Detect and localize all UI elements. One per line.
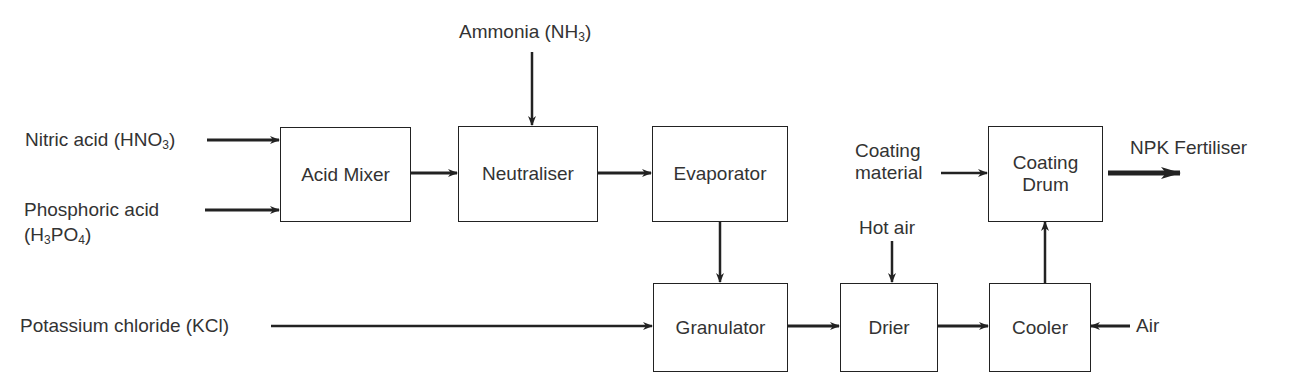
- air-label: Air: [1136, 315, 1159, 337]
- coating-drum-box: Coating Drum: [988, 126, 1103, 222]
- nitric-acid-label: Nitric acid (HNO3): [25, 129, 175, 151]
- potassium-chloride-label: Potassium chloride (KCl): [20, 315, 229, 337]
- granulator-label: Granulator: [676, 317, 766, 339]
- ammonia-label: Ammonia (NH3): [459, 21, 591, 43]
- npk-fertiliser-label: NPK Fertiliser: [1130, 137, 1247, 159]
- drier-box: Drier: [840, 283, 938, 372]
- cooler-box: Cooler: [989, 283, 1091, 372]
- drier-label: Drier: [868, 317, 909, 339]
- neutraliser-box: Neutraliser: [458, 126, 598, 222]
- evaporator-box: Evaporator: [652, 126, 788, 222]
- acid-mixer-label: Acid Mixer: [301, 164, 390, 186]
- coating-drum-label-line2: Drum: [1022, 174, 1068, 196]
- cooler-label: Cooler: [1012, 317, 1068, 339]
- coating-drum-label-line1: Coating: [1013, 152, 1079, 174]
- acid-mixer-box: Acid Mixer: [280, 127, 411, 222]
- coating-material-label: Coating material: [855, 140, 923, 184]
- evaporator-label: Evaporator: [674, 163, 767, 185]
- neutraliser-label: Neutraliser: [482, 163, 574, 185]
- phosphoric-acid-label: Phosphoric acid (H3PO4): [24, 199, 159, 246]
- granulator-box: Granulator: [653, 283, 788, 372]
- hot-air-label: Hot air: [859, 217, 915, 239]
